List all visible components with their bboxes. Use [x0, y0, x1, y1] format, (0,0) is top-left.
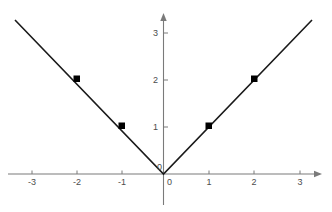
y-tick-label-3: 3	[153, 29, 158, 38]
data-point-marker	[74, 76, 81, 83]
x-tick-label--2: -2	[73, 178, 81, 187]
x-tick-label-1: 1	[206, 178, 211, 187]
y-axis-arrow-icon	[160, 13, 166, 21]
y-axis-ticks	[164, 33, 169, 127]
data-point-marker	[206, 123, 213, 130]
data-point-marker	[119, 123, 126, 130]
data-point-marker	[251, 76, 258, 83]
x-tick-label-3: 3	[297, 178, 302, 187]
x-axis-origin-label: 0	[167, 178, 172, 187]
data-point-markers	[74, 76, 258, 130]
absolute-value-graph-figure: -3 -2 -1 1 2 3 0 1 2 3 0	[0, 0, 332, 212]
x-axis-arrow-icon	[314, 171, 322, 177]
plot-canvas	[0, 0, 332, 212]
x-tick-label-2: 2	[251, 178, 256, 187]
y-tick-label-1: 1	[153, 123, 158, 132]
y-axis-origin-label: 0	[157, 163, 162, 172]
x-tick-label--3: -3	[28, 178, 36, 187]
y-tick-label-2: 2	[153, 76, 158, 85]
x-tick-label--1: -1	[118, 178, 126, 187]
